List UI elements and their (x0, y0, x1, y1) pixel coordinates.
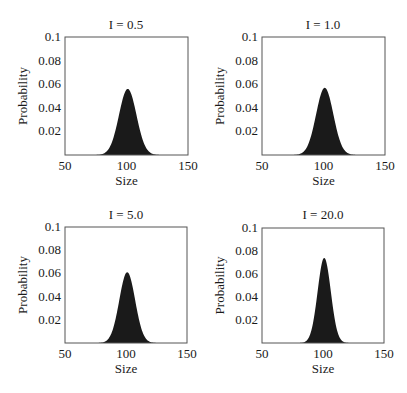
panel-i-0-5: I = 0.5 Probability Size 0.020.040.060.0… (15, 17, 198, 188)
y-axis-label: Probability (15, 256, 30, 314)
x-axis-label: Size (312, 361, 335, 376)
y-tick-label: 0.1 (45, 219, 61, 234)
distribution-area (65, 272, 187, 343)
y-axis-label: Probability (212, 256, 227, 314)
x-tick-label: 100 (116, 346, 136, 361)
x-tick-label: 150 (178, 158, 198, 173)
chart-grid: I = 0.5 Probability Size 0.020.040.060.0… (0, 0, 407, 393)
y-tick-label: 0.08 (235, 53, 258, 68)
y-tick-labels: 0.020.040.060.080.1 (38, 219, 61, 327)
distribution-area (262, 88, 385, 155)
distribution-area (65, 89, 188, 155)
x-tick-label: 50 (59, 346, 72, 361)
y-tick-label: 0.06 (38, 265, 61, 280)
panel-i-1-0: I = 1.0 Probability Size 0.020.040.060.0… (212, 17, 395, 188)
y-tick-label: 0.1 (242, 220, 258, 235)
x-tick-labels: 50100150 (59, 346, 197, 361)
y-tick-label: 0.02 (235, 123, 258, 138)
x-tick-label: 50 (256, 158, 269, 173)
x-tick-labels: 50100150 (59, 158, 198, 173)
x-tick-label: 100 (117, 158, 137, 173)
y-tick-label: 0.08 (235, 243, 258, 258)
panel-i-5-0: I = 5.0 Probability Size 0.020.040.060.0… (15, 207, 197, 376)
panel-title: I = 5.0 (109, 207, 143, 222)
y-tick-label: 0.06 (38, 76, 61, 91)
y-tick-label: 0.06 (235, 76, 258, 91)
distribution-area (262, 258, 384, 343)
panel-title: I = 1.0 (306, 17, 340, 32)
x-tick-label: 50 (256, 346, 269, 361)
y-tick-labels: 0.020.040.060.080.1 (38, 29, 61, 138)
y-tick-label: 0.06 (235, 266, 258, 281)
panel-title: I = 0.5 (109, 17, 143, 32)
x-tick-label: 150 (177, 346, 197, 361)
x-tick-label: 100 (314, 158, 334, 173)
y-tick-label: 0.02 (235, 312, 258, 327)
y-tick-labels: 0.020.040.060.080.1 (235, 29, 258, 138)
x-axis-label: Size (115, 173, 138, 188)
y-tick-labels: 0.020.040.060.080.1 (235, 220, 258, 327)
y-tick-label: 0.04 (235, 100, 258, 115)
y-axis-label: Probability (212, 67, 227, 125)
panel-title: I = 20.0 (303, 207, 344, 222)
x-tick-labels: 50100150 (256, 346, 394, 361)
y-tick-label: 0.08 (38, 53, 61, 68)
x-axis-label: Size (312, 173, 335, 188)
y-tick-label: 0.1 (45, 29, 61, 44)
y-tick-label: 0.1 (242, 29, 258, 44)
x-tick-label: 50 (59, 158, 72, 173)
figure: I = 0.5 Probability Size 0.020.040.060.0… (0, 0, 407, 393)
y-tick-label: 0.02 (38, 312, 61, 327)
y-tick-label: 0.04 (38, 289, 61, 304)
y-tick-label: 0.04 (38, 100, 61, 115)
x-tick-label: 100 (313, 346, 333, 361)
y-axis-label: Probability (15, 67, 30, 125)
y-tick-label: 0.02 (38, 123, 61, 138)
y-tick-label: 0.04 (235, 289, 258, 304)
panel-i-20-0: I = 20.0 Probability Size 0.020.040.060.… (212, 207, 394, 376)
y-tick-label: 0.08 (38, 242, 61, 257)
x-tick-label: 150 (375, 158, 395, 173)
x-axis-label: Size (115, 361, 138, 376)
x-tick-labels: 50100150 (256, 158, 395, 173)
x-tick-label: 150 (374, 346, 394, 361)
